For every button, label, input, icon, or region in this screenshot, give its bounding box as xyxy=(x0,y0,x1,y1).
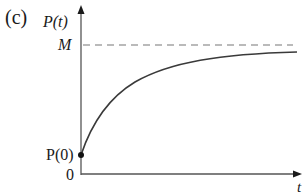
x-axis-arrow-icon xyxy=(293,171,302,178)
x-axis-label: t xyxy=(297,179,302,195)
y-axis-arrow-icon xyxy=(78,5,85,14)
growth-curve xyxy=(81,52,297,155)
panel-label: (c) xyxy=(5,6,27,29)
logistic-growth-figure: P(t) M P(0) 0 t (c) xyxy=(0,0,306,196)
initial-point xyxy=(78,152,84,158)
y-axis-label: P(t) xyxy=(42,13,68,31)
chart-canvas: P(t) M P(0) 0 t xyxy=(0,0,306,196)
origin-label: 0 xyxy=(66,166,74,183)
m-tick-label: M xyxy=(57,36,73,53)
p0-tick-label: P(0) xyxy=(46,146,74,164)
